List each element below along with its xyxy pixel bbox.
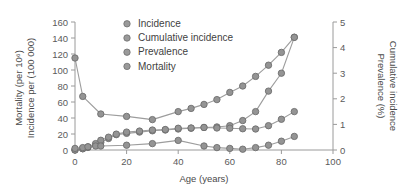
- y-tick-label-left: 160: [52, 17, 68, 28]
- data-point: [240, 83, 246, 89]
- data-point: [252, 108, 258, 114]
- y-tick-label-left: 20: [57, 129, 68, 140]
- x-tick-label: 80: [276, 156, 287, 167]
- data-point: [265, 62, 271, 68]
- legend-marker-2: [124, 49, 130, 55]
- y-tick-label-left: 0: [63, 145, 68, 156]
- labels-layer: Mortality (per 10⁶)Incidence per (100 00…: [13, 38, 399, 184]
- x-tick-label: 100: [325, 156, 341, 167]
- data-point: [201, 143, 207, 149]
- data-point: [149, 140, 155, 146]
- data-point: [214, 125, 220, 131]
- data-point: [80, 93, 86, 99]
- data-point: [227, 125, 233, 131]
- legend-marker-3: [124, 63, 130, 69]
- data-point: [278, 70, 284, 76]
- data-point: [291, 34, 297, 40]
- legend-label-3: Mortality: [138, 61, 176, 72]
- series-path: [75, 112, 294, 150]
- y-tick-label-right: 3: [340, 68, 345, 79]
- data-point: [252, 144, 258, 150]
- y-tick-label-right: 5: [340, 17, 345, 28]
- x-tick-label: 0: [72, 156, 77, 167]
- data-point: [291, 108, 297, 114]
- y-tick-label-right: 2: [340, 93, 345, 104]
- data-point: [278, 138, 284, 144]
- y-tick-label-left: 100: [52, 65, 68, 76]
- data-point: [252, 126, 258, 132]
- data-point: [123, 113, 129, 119]
- y-axis-label-right-line1: Cumulative incidence: [388, 41, 399, 131]
- data-point: [72, 145, 78, 151]
- y-tick-label-left: 60: [57, 97, 68, 108]
- data-point: [149, 116, 155, 122]
- data-point: [265, 88, 271, 94]
- data-point: [85, 144, 91, 150]
- legend-marker-0: [124, 21, 130, 27]
- data-point: [72, 55, 78, 61]
- data-point: [240, 117, 246, 123]
- chart-svg: 020406080100020406080100120140160012345 …: [0, 0, 402, 193]
- data-point: [98, 143, 104, 149]
- data-point: [149, 127, 155, 133]
- y-tick-label-right: 0: [340, 145, 345, 156]
- x-tick-label: 40: [173, 156, 184, 167]
- data-point: [175, 108, 181, 114]
- data-point: [175, 125, 181, 131]
- data-point: [278, 49, 284, 55]
- data-point: [98, 111, 104, 117]
- y-tick-label-left: 80: [57, 81, 68, 92]
- y-axis-label-left-line2: Incidence per (100 000): [25, 38, 36, 138]
- y-axis-label-left-line1: Mortality (per 10⁶): [13, 50, 24, 126]
- y-tick-label-left: 120: [52, 49, 68, 60]
- data-point: [265, 142, 271, 148]
- y-tick-label-right: 4: [340, 42, 345, 53]
- data-point: [240, 126, 246, 132]
- data-point: [278, 116, 284, 122]
- data-point: [252, 73, 258, 79]
- data-point: [175, 137, 181, 143]
- data-point: [162, 126, 168, 132]
- data-point: [201, 101, 207, 107]
- data-point: [201, 124, 207, 130]
- x-axis-label: Age (years): [179, 173, 228, 184]
- data-point: [105, 134, 111, 140]
- y-tick-label-right: 1: [340, 119, 345, 130]
- y-axis-label-right-line2: Prevalence (%): [376, 54, 387, 119]
- data-point: [136, 128, 142, 134]
- chart-container: 020406080100020406080100120140160012345 …: [0, 0, 402, 193]
- data-point: [227, 145, 233, 151]
- legend-layer: IncidenceCumulative incidencePrevalenceM…: [124, 18, 234, 72]
- data-point: [123, 129, 129, 135]
- data-point: [214, 144, 220, 150]
- data-point: [113, 131, 119, 137]
- y-tick-label-left: 140: [52, 33, 68, 44]
- data-point: [214, 96, 220, 102]
- x-tick-label: 60: [225, 156, 236, 167]
- x-tick-label: 20: [121, 156, 132, 167]
- data-point: [123, 142, 129, 148]
- legend-label-1: Cumulative incidence: [138, 32, 233, 43]
- data-point: [291, 133, 297, 139]
- data-point: [227, 89, 233, 95]
- y-tick-label-left: 40: [57, 113, 68, 124]
- data-point: [265, 122, 271, 128]
- legend-label-0: Incidence: [138, 18, 181, 29]
- legend-label-2: Prevalence: [138, 46, 188, 57]
- data-point: [240, 146, 246, 152]
- legend-marker-1: [124, 35, 130, 41]
- data-point: [188, 125, 194, 131]
- data-point: [188, 105, 194, 111]
